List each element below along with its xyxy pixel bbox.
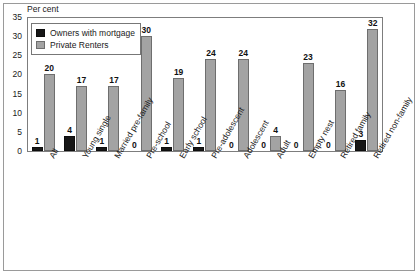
y-tick-label-30: 30 <box>13 31 22 41</box>
y-tick-label-10: 10 <box>13 108 22 118</box>
x-axis-label-slot: Retired family <box>318 153 350 271</box>
bar-value-label-renters: 23 <box>303 52 312 62</box>
bar-owners-with-mortgage <box>32 147 43 151</box>
x-axis-label-slot: Adult <box>254 153 286 271</box>
bar-value-label-renters: 17 <box>77 75 86 85</box>
bar-value-label-owners: 0 <box>261 140 266 150</box>
bar-private-renters <box>173 78 184 151</box>
bar-value-label-renters: 20 <box>44 63 53 73</box>
y-axis-title: Per cent <box>27 4 59 15</box>
bar-owners-with-mortgage <box>96 147 107 151</box>
x-axis-label-slot: Empty nest <box>286 153 318 271</box>
x-axis-label-slot: Young single <box>59 153 91 271</box>
legend-item-private-renters: Private Renters <box>36 39 135 51</box>
legend-item-owners-with-mortgage: Owners with mortgage <box>36 27 135 39</box>
y-axis: 35302520151050 <box>0 17 25 152</box>
bar-private-renters <box>303 63 314 151</box>
x-axis-label-slot: Married pre-family <box>92 153 124 271</box>
gray-swatch-icon <box>36 41 45 49</box>
bar-value-label-owners: 0 <box>294 140 299 150</box>
y-tick-label-15: 15 <box>13 89 22 99</box>
bar-value-label-owners: 0 <box>326 140 331 150</box>
x-axis-label-slot: Pre-adolescent <box>189 153 221 271</box>
x-axis-label-slot: Retired non-family <box>351 153 383 271</box>
bar-value-label-renters: 24 <box>239 48 248 58</box>
bar-value-label-owners: 1 <box>35 136 40 146</box>
x-axis-label-slot: Pre-school <box>124 153 156 271</box>
bar-private-renters <box>205 59 216 151</box>
x-axis-label-slot: All <box>27 153 59 271</box>
bar-value-label-renters: 32 <box>368 18 377 28</box>
bar-value-label-renters: 17 <box>109 75 118 85</box>
bar-private-renters <box>76 86 87 151</box>
bar-value-label-renters: 16 <box>336 79 345 89</box>
bar-group: 023 <box>286 17 318 151</box>
x-axis-label-slot: Adolescent <box>221 153 253 271</box>
bar-private-renters <box>141 36 152 151</box>
bar-value-label-renters: 30 <box>142 25 151 35</box>
black-swatch-icon <box>36 29 45 37</box>
y-tick-label-0: 0 <box>17 146 22 156</box>
bar-private-renters <box>44 74 55 151</box>
bar-private-renters <box>238 59 249 151</box>
bar-value-label-owners: 0 <box>132 140 137 150</box>
chart-legend: Owners with mortgage Private Renters <box>31 23 141 55</box>
bar-value-label-owners: 4 <box>67 125 72 135</box>
y-tick-label-35: 35 <box>13 12 22 22</box>
x-axis-category-labels: AllYoung singleMarried pre-familyPre-sch… <box>27 153 383 271</box>
legend-label-owners: Owners with mortgage <box>50 28 135 38</box>
y-tick-label-20: 20 <box>13 69 22 79</box>
bar-value-label-renters: 19 <box>174 67 183 77</box>
bar-owners-with-mortgage <box>161 147 172 151</box>
bar-private-renters <box>367 29 378 152</box>
x-axis-label-slot: Early school <box>156 153 188 271</box>
y-tick-label-5: 5 <box>17 127 22 137</box>
bar-owners-with-mortgage <box>193 147 204 151</box>
bar-value-label-renters: 24 <box>206 48 215 58</box>
bar-owners-with-mortgage <box>64 136 75 151</box>
legend-label-renters: Private Renters <box>50 40 109 50</box>
y-tick-label-25: 25 <box>13 50 22 60</box>
bar-value-label-renters: 4 <box>273 125 278 135</box>
bar-chart-figure: Per cent 35302520151050 1204171170301191… <box>0 0 418 274</box>
bar-value-label-owners: 0 <box>229 140 234 150</box>
